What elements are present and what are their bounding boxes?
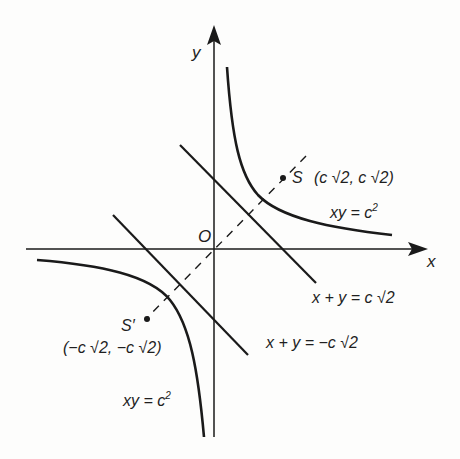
point-s-label: S (292, 170, 303, 186)
tangent-line-upper (180, 145, 316, 283)
y-axis-label: y (192, 44, 201, 61)
origin-label: O (198, 228, 211, 245)
tangent-lower-equation: x + y = −c √2 (266, 335, 358, 351)
hyperbola-equation-lower-lhs: xy = c (123, 392, 165, 409)
point-s-prime-label: S′ (121, 318, 135, 334)
point-s-marker-icon (280, 175, 286, 181)
rectangular-hyperbola-diagram: y x O S (c √2, c √2) xy = c2 x + y = c √… (0, 0, 460, 459)
hyperbola-equation-upper-lhs: xy = c (330, 204, 372, 221)
hyperbola-equation-upper-exponent: 2 (372, 202, 378, 213)
x-axis-label: x (427, 253, 436, 270)
point-s-prime-coords: (−c √2, −c √2) (63, 340, 161, 356)
point-s-prime-marker-icon (144, 316, 150, 322)
diagram-canvas (0, 0, 460, 459)
hyperbola-equation-lower-exponent: 2 (165, 390, 171, 401)
point-s-coords: (c √2, c √2) (314, 170, 394, 186)
hyperbola-equation-lower: xy = c2 (123, 391, 171, 409)
hyperbola-equation-upper: xy = c2 (330, 203, 378, 221)
tangent-upper-equation: x + y = c √2 (312, 290, 395, 306)
